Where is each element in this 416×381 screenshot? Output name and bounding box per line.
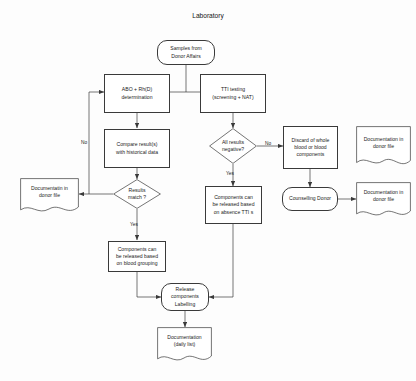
node-compare-results-label: Compare result(s) with historical data (116, 141, 158, 155)
node-discard-blood[interactable]: Discard of whole blood or blood componen… (283, 126, 338, 169)
node-release-absence-tti-label: Components can be released based on abse… (212, 194, 254, 216)
node-release-absence-tti[interactable]: Components can be released based on abse… (205, 186, 262, 224)
node-documentation-donor-top[interactable]: Documentation in donor file (356, 126, 411, 169)
node-release-blood-grouping-label: Components can be released based on bloo… (116, 246, 158, 268)
node-results-match[interactable]: Results match ? (113, 179, 161, 209)
node-documentation-daily-list[interactable]: Documentation (daily list) (157, 327, 212, 364)
diagram-title: Laboratory (120, 12, 296, 19)
node-abo-rhd[interactable]: ABO + Rh(D) determination (104, 74, 170, 113)
node-documentation-donor-right[interactable]: Documentation in donor file (356, 182, 411, 219)
node-abo-rhd-label: ABO + Rh(D) determination (122, 86, 153, 100)
node-counselling-donor-label: Counselling Donor (289, 195, 331, 202)
node-tti-testing[interactable]: TTI testing (screening + NAT) (200, 74, 266, 113)
node-release-components-labelling-label: Release components Labelling (171, 286, 199, 308)
node-start-label: Samples from Donor Affairs (170, 45, 202, 59)
edge-label-yes-left: Yes (130, 222, 138, 227)
edge-label-no-left: No (81, 140, 87, 145)
node-counselling-donor[interactable]: Counselling Donor (282, 187, 338, 211)
node-documentation-donor-left[interactable]: Documentatin in donor file (20, 178, 79, 215)
flowchart-canvas: Laboratory (0, 0, 416, 381)
node-release-components-labelling[interactable]: Release components Labelling (161, 283, 209, 311)
node-start[interactable]: Samples from Donor Affairs (157, 40, 215, 65)
node-all-results-negative[interactable]: All results negative? (209, 128, 257, 164)
node-tti-testing-label: TTI testing (screening + NAT) (212, 86, 253, 100)
node-compare-results[interactable]: Compare result(s) with historical data (104, 129, 170, 168)
edge-label-no-right: No (265, 141, 271, 146)
edge-label-yes-right: Yes (226, 171, 234, 176)
node-discard-blood-label: Discard of whole blood or blood componen… (292, 137, 330, 159)
node-release-blood-grouping[interactable]: Components can be released based on bloo… (108, 241, 166, 272)
